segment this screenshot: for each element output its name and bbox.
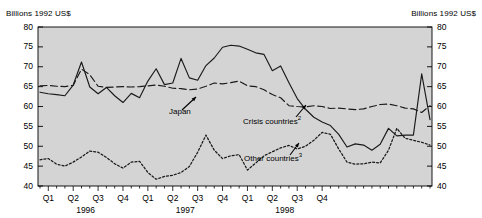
chart-figure: Billions 1992 US$ Billions 1992 US$ 4040… (0, 0, 482, 218)
y-tick-label-right: 50 (437, 141, 453, 151)
x-tick-label-quarter: Q2 (260, 193, 284, 203)
other-series-label-text: Other countries (244, 154, 299, 163)
x-tick-label-quarter: Q1 (235, 193, 259, 203)
y-tick-label-right: 75 (437, 41, 453, 51)
x-tick-label-quarter: Q1 (136, 193, 160, 203)
x-tick-label-quarter: Q4 (310, 193, 334, 203)
y-axis-unit-label-right: Billions 1992 US$ (411, 9, 476, 18)
other-series-label: Other countries3 (244, 152, 302, 163)
x-axis-year-label: 1997 (168, 205, 202, 215)
y-tick-label-right: 80 (437, 22, 453, 32)
y-tick-label-left: 75 (17, 41, 33, 51)
y-tick-label-right: 70 (437, 61, 453, 71)
y-tick-label-left: 70 (17, 61, 33, 71)
y-tick-label-left: 55 (17, 121, 33, 131)
x-tick-label-quarter: Q3 (285, 193, 309, 203)
y-tick-label-left: 65 (17, 81, 33, 91)
y-tick-label-left: 50 (17, 141, 33, 151)
x-axis-year-label: 1998 (268, 205, 302, 215)
y-tick-label-right: 45 (437, 161, 453, 171)
x-axis-year-label: 1996 (69, 205, 103, 215)
y-tick-label-right: 60 (437, 101, 453, 111)
y-axis-unit-label-left: Billions 1992 US$ (6, 9, 71, 18)
y-tick-label-left: 45 (17, 161, 33, 171)
x-tick-label-quarter: Q2 (161, 193, 185, 203)
y-tick-label-right: 65 (437, 81, 453, 91)
other-series-label-footnote-marker: 3 (299, 152, 302, 158)
x-tick-label-quarter: Q1 (36, 193, 60, 203)
y-tick-label-right: 55 (437, 121, 453, 131)
y-tick-label-left: 80 (17, 22, 33, 32)
y-tick-label-left: 40 (17, 181, 33, 191)
x-tick-label-quarter: Q3 (186, 193, 210, 203)
japan-series-label-text: Japan (169, 107, 191, 116)
y-tick-label-left: 60 (17, 101, 33, 111)
x-tick-label-quarter: Q4 (211, 193, 235, 203)
y-tick-label-right: 40 (437, 181, 453, 191)
x-tick-label-quarter: Q4 (111, 193, 135, 203)
crisis-series-label-text: Crisis countries (243, 117, 298, 126)
crisis-series-label-footnote-marker: 2 (298, 115, 301, 121)
crisis-series-label: Crisis countries2 (243, 115, 301, 126)
japan-series-label: Japan (169, 107, 191, 116)
x-tick-label-quarter: Q3 (86, 193, 110, 203)
line-chart-plot-area (0, 0, 482, 218)
x-tick-label-quarter: Q2 (61, 193, 85, 203)
